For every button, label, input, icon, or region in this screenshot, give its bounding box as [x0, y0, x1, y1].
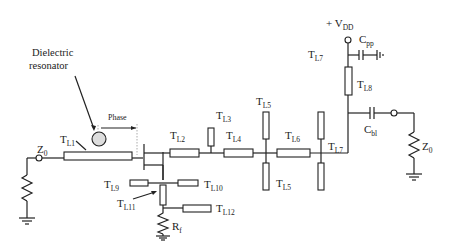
tl12-label: TL12	[216, 202, 235, 217]
tl8-label: TL8	[357, 78, 372, 93]
tl11-label: TL11	[117, 197, 136, 212]
dielectric-label-2: resonator	[29, 60, 69, 71]
tl11-stub	[160, 185, 166, 205]
z0-output-resistor-icon	[409, 132, 419, 158]
tl10-label: TL10	[204, 178, 223, 193]
tl5-top-stub	[263, 112, 269, 139]
rf-resistor-icon	[158, 208, 168, 234]
tl1-label: TL1	[60, 133, 75, 148]
tl6-label: TL6	[285, 129, 300, 144]
phase-label: Phase	[108, 113, 127, 122]
tl3-label: TL3	[216, 109, 231, 124]
tl5-top-label: TL5	[256, 95, 271, 110]
tl2-label: TL2	[170, 129, 185, 144]
tl9-stub	[130, 180, 148, 186]
tl7-top-stub	[318, 112, 324, 139]
input-port-icon	[36, 155, 42, 161]
tl5-bottom-label: TL5	[276, 177, 291, 192]
dielectric-resonator-icon	[92, 132, 106, 146]
tl7-top-label: TL7	[308, 48, 323, 63]
tl8-stub	[345, 67, 352, 95]
tl1-line	[64, 152, 132, 160]
tl4-line	[224, 149, 253, 157]
tl9-label: TL9	[104, 178, 119, 193]
input-termination	[19, 155, 64, 224]
tl12-stub	[183, 205, 211, 212]
output-port-icon	[391, 110, 397, 116]
rf-label: Rf	[172, 220, 182, 235]
circuit-schematic: Z0 TL1 Dielectric resonator Phase TL2 TL…	[0, 0, 451, 241]
tl4-label: TL4	[226, 129, 241, 144]
vdd-label: + VDD	[326, 17, 354, 32]
z0-input-resistor-icon	[22, 175, 32, 201]
tl11-arrow	[133, 192, 155, 199]
dielectric-label-1: Dielectric	[32, 47, 74, 58]
cbl-label: Cbl	[364, 123, 377, 138]
cpp-label: Cpp	[359, 33, 374, 48]
vdd-terminal-icon	[345, 37, 351, 43]
tl1-arrow	[76, 141, 86, 150]
tl2-line	[170, 149, 199, 157]
tl3-stub	[208, 128, 214, 146]
z0-output-label: Z0	[422, 140, 433, 155]
tl6-line	[277, 149, 310, 157]
tl10-stub	[178, 180, 198, 186]
tl7-bottom-stub	[318, 163, 324, 190]
tl5-bottom-stub	[263, 163, 269, 190]
